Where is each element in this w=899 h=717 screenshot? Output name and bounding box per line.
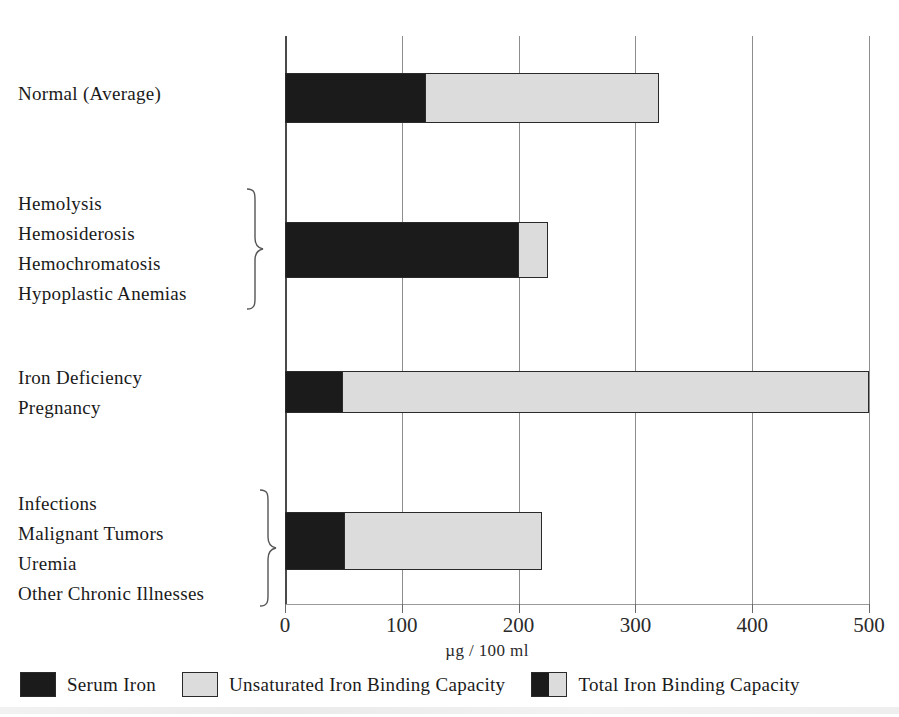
tick-label-200: 200 [503, 613, 535, 638]
legend-label-serum-iron: Serum Iron [67, 674, 156, 696]
legend-item-tibc: Total Iron Binding Capacity [531, 672, 800, 697]
legend-swatch-uibc [182, 672, 218, 697]
category-line: Malignant Tumors [18, 519, 263, 549]
category-line: Iron Deficiency [18, 363, 263, 393]
tick-label-400: 400 [736, 613, 768, 638]
tick-mark-0 [285, 604, 286, 613]
bar-iron-deficiency [285, 371, 869, 413]
bar-iron-overload [285, 222, 548, 278]
x-axis-title: µg / 100 ml [0, 641, 899, 661]
category-line: Hemolysis [18, 189, 263, 219]
bar-segment-serum-iron [286, 223, 518, 277]
legend-label-uibc: Unsaturated Iron Binding Capacity [229, 674, 505, 696]
tick-mark-500 [869, 604, 870, 613]
bar-segment-serum-iron [286, 513, 344, 569]
category-line: Hemochromatosis [18, 249, 263, 279]
tick-label-100: 100 [386, 613, 418, 638]
group-brace-chronic-disease [256, 489, 278, 607]
tick-label-0: 0 [280, 613, 291, 638]
legend-item-uibc: Unsaturated Iron Binding Capacity [182, 672, 505, 697]
category-line: Other Chronic Illnesses [18, 579, 263, 609]
x-axis-title-text: µg / 100 ml [445, 641, 529, 661]
x-axis-baseline [285, 604, 869, 605]
legend: Serum Iron Unsaturated Iron Binding Capa… [20, 672, 890, 697]
gridline-500 [869, 36, 870, 605]
bar-segment-uibc [425, 74, 658, 122]
category-line: Hypoplastic Anemias [18, 279, 263, 309]
bar-segment-uibc [518, 223, 547, 277]
bar-segment-uibc [344, 513, 541, 569]
bar-chronic-disease [285, 512, 542, 570]
category-line: Normal (Average) [18, 79, 263, 109]
tick-label-300: 300 [620, 613, 652, 638]
legend-item-serum-iron: Serum Iron [20, 672, 156, 697]
category-label-chronic-disease: Infections Malignant Tumors Uremia Other… [18, 489, 263, 609]
tick-label-500: 500 [853, 613, 885, 638]
legend-swatch-tibc [531, 672, 567, 697]
category-line: Infections [18, 489, 263, 519]
group-brace-iron-overload [243, 188, 265, 310]
tick-mark-400 [752, 604, 753, 613]
category-line: Hemosiderosis [18, 219, 263, 249]
gridline-400 [752, 36, 753, 605]
category-label-iron-overload: Hemolysis Hemosiderosis Hemochromatosis … [18, 189, 263, 309]
tick-mark-200 [519, 604, 520, 613]
bar-segment-uibc [342, 372, 868, 412]
bar-segment-serum-iron [286, 74, 425, 122]
bar-segment-serum-iron [286, 372, 342, 412]
category-label-iron-deficiency: Iron Deficiency Pregnancy [18, 363, 263, 423]
iron-studies-chart: Normal (Average) Hemolysis Hemosiderosis… [0, 0, 899, 717]
category-label-normal: Normal (Average) [18, 79, 263, 109]
category-line: Pregnancy [18, 393, 263, 423]
legend-label-tibc: Total Iron Binding Capacity [578, 674, 800, 696]
tick-mark-100 [402, 604, 403, 613]
tick-mark-300 [635, 604, 636, 613]
page-bleed-artifact [0, 707, 899, 714]
category-line: Uremia [18, 549, 263, 579]
legend-swatch-serum-iron [20, 672, 56, 697]
bar-normal [285, 73, 659, 123]
